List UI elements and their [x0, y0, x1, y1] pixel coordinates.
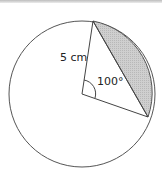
circle-diagram: 5 cm 100°	[0, 0, 162, 178]
radius-label: 5 cm	[60, 51, 87, 64]
angle-label: 100°	[97, 75, 124, 88]
